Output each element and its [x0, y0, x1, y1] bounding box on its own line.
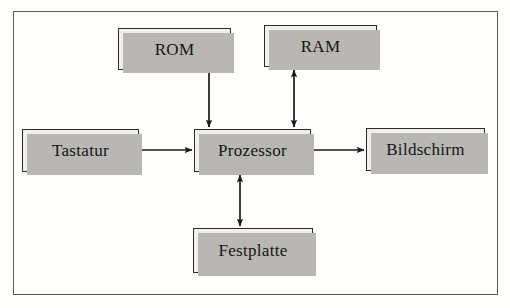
node-prozessor: Prozessor: [194, 129, 311, 172]
node-bildschirm-label: Bildschirm: [386, 141, 465, 158]
node-ram: RAM: [264, 25, 377, 67]
node-tastatur: Tastatur: [22, 129, 139, 172]
node-bildschirm: Bildschirm: [366, 128, 485, 171]
node-rom-label: ROM: [155, 41, 195, 58]
node-tastatur-label: Tastatur: [52, 142, 109, 159]
node-rom: ROM: [118, 28, 231, 70]
diagram-root: ROM RAM Tastatur Prozessor Bildschirm Fe…: [0, 0, 510, 308]
node-festplatte-label: Festplatte: [218, 242, 287, 259]
node-ram-label: RAM: [301, 38, 341, 55]
node-festplatte: Festplatte: [193, 228, 313, 273]
node-prozessor-label: Prozessor: [218, 142, 287, 159]
